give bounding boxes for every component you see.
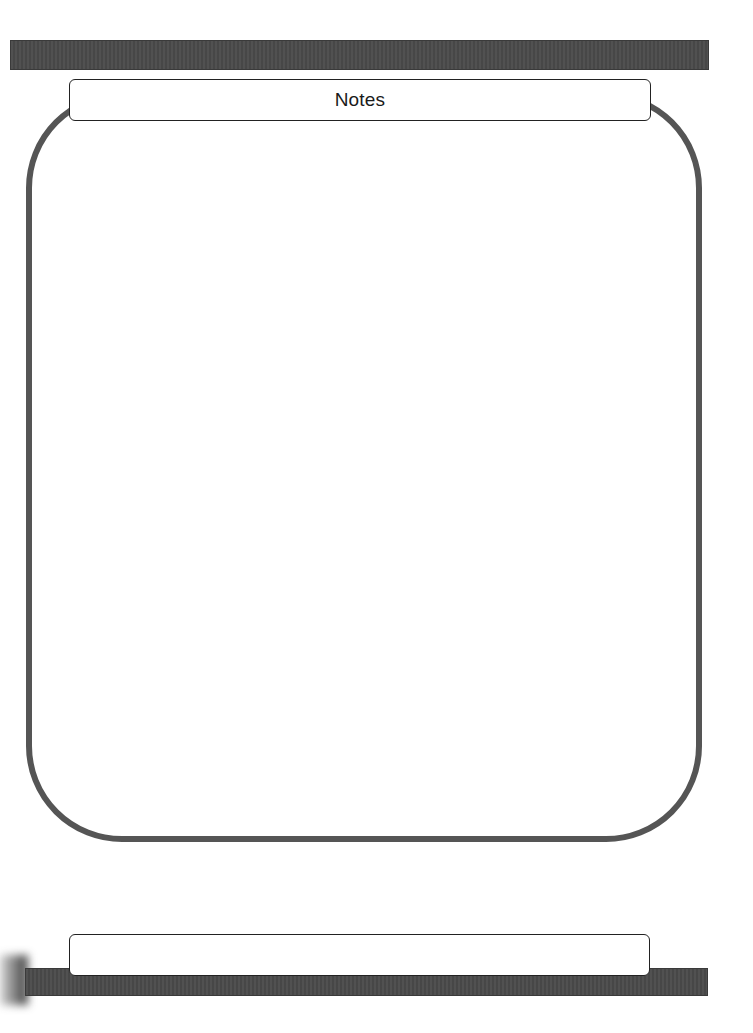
footer-box [69, 934, 650, 976]
page-edge-shadow [0, 955, 28, 1005]
notes-header-box: Notes [69, 79, 651, 121]
page-title: Notes [335, 89, 386, 111]
notes-writing-area [40, 130, 688, 830]
top-decorative-bar [10, 40, 709, 70]
